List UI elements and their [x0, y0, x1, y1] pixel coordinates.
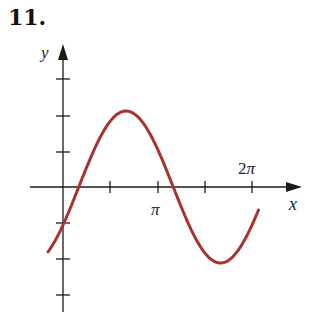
x-axis-arrow-icon	[286, 182, 302, 192]
graph: y x π 2π	[0, 0, 310, 323]
pi-label: π	[151, 200, 160, 219]
x-axis-label: x	[288, 194, 297, 214]
two-pi-label: 2π	[238, 159, 256, 178]
y-axis-arrow-icon	[58, 44, 68, 60]
y-axis-label: y	[39, 43, 49, 62]
